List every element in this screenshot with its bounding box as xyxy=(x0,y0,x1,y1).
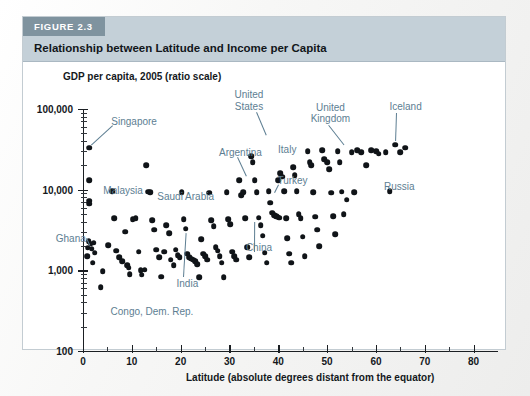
annotation-line: Kingdom xyxy=(311,113,350,125)
x-tick-label: 0 xyxy=(80,356,86,367)
x-tick-minor xyxy=(400,347,401,352)
y-tick-minor xyxy=(81,151,87,152)
scatter-point xyxy=(158,274,164,280)
scatter-point xyxy=(250,159,256,165)
scatter-point xyxy=(298,216,304,222)
x-tick-major xyxy=(474,345,475,353)
scatter-point xyxy=(286,251,292,257)
scatter-point xyxy=(349,150,355,156)
y-tick-minor xyxy=(81,274,87,275)
scatter-point xyxy=(328,190,334,196)
x-tick-minor xyxy=(254,347,255,352)
scatter-point xyxy=(224,189,230,195)
y-tick-label: 1,000 xyxy=(48,265,73,276)
scatter-point xyxy=(344,197,350,203)
scatter-point xyxy=(126,265,132,271)
scatter-point xyxy=(133,216,139,222)
scatter-point xyxy=(156,255,162,261)
annotation-line: States xyxy=(235,101,264,113)
x-tick-major xyxy=(83,345,84,353)
scatter-point xyxy=(87,178,93,184)
scatter-point xyxy=(284,235,290,241)
scatter-point xyxy=(332,231,338,237)
scatter-point xyxy=(339,189,345,195)
scatter-point xyxy=(217,253,223,259)
annotation-line: United xyxy=(235,89,264,101)
x-tick-minor xyxy=(449,347,450,352)
y-tick-label: 100,000 xyxy=(37,104,73,115)
scatter-point xyxy=(236,178,242,184)
annotation-label: Ghana xyxy=(56,233,86,245)
y-tick-major xyxy=(78,190,88,191)
x-axis-line xyxy=(83,351,498,352)
scatter-point xyxy=(219,260,225,266)
scatter-point xyxy=(398,150,404,156)
y-tick-minor xyxy=(81,295,87,296)
scatter-point xyxy=(98,284,104,290)
scatter-point xyxy=(288,260,294,266)
scatter-point xyxy=(163,223,169,229)
scatter-point xyxy=(256,215,262,221)
scatter-point xyxy=(208,217,214,223)
scatter-point xyxy=(294,189,300,195)
scatter-point xyxy=(181,216,187,222)
y-tick-minor xyxy=(81,197,87,198)
scatter-point xyxy=(313,214,319,220)
scatter-point xyxy=(311,189,317,195)
chart-plot-area: GDP per capita, 2005 (ratio scale) 1001,… xyxy=(23,62,505,349)
scatter-point xyxy=(100,268,106,274)
y-tick-minor xyxy=(81,193,87,194)
x-tick-label: 80 xyxy=(468,356,479,367)
y-tick-minor xyxy=(81,283,87,284)
x-tick-minor xyxy=(107,347,108,352)
scatter-point xyxy=(161,249,167,255)
y-tick-major xyxy=(78,109,88,110)
scatter-point xyxy=(211,224,217,230)
scatter-point xyxy=(300,234,306,240)
scatter-point xyxy=(317,243,323,249)
scatter-point xyxy=(319,147,325,153)
scatter-point xyxy=(91,240,97,246)
x-tick-major xyxy=(278,345,279,353)
y-tick-minor xyxy=(81,222,87,223)
scatter-point xyxy=(122,229,128,235)
x-tick-label: 60 xyxy=(370,356,381,367)
scatter-point xyxy=(150,217,156,223)
scatter-point xyxy=(87,201,93,207)
annotation-label: Iceland xyxy=(389,101,421,113)
y-axis-line xyxy=(83,109,84,352)
x-tick-minor xyxy=(156,347,157,352)
annotation-label: Turkey xyxy=(277,175,307,187)
scatter-point xyxy=(171,263,177,269)
y-tick-minor xyxy=(81,117,87,118)
annotation-label: India xyxy=(177,278,199,290)
scatter-point xyxy=(246,255,252,261)
scatter-point xyxy=(358,150,364,156)
scatter-point xyxy=(92,250,98,256)
scatter-point xyxy=(242,216,248,222)
scatter-point xyxy=(177,255,183,261)
x-tick-label: 50 xyxy=(322,356,333,367)
scatter-point xyxy=(260,233,266,239)
x-tick-major xyxy=(181,345,182,353)
scatter-point xyxy=(136,249,142,255)
x-tick-label: 10 xyxy=(126,356,137,367)
chart-axis-title-x: Latitude (absolute degrees distant from … xyxy=(186,372,434,383)
scatter-point xyxy=(87,145,93,151)
annotation-label: Russia xyxy=(384,181,415,193)
annotation-leader-line xyxy=(395,113,397,141)
scatter-point xyxy=(335,148,341,154)
x-tick-label: 40 xyxy=(273,356,284,367)
y-tick-minor xyxy=(81,113,87,114)
scatter-point xyxy=(106,242,112,248)
scatter-point xyxy=(221,274,227,280)
annotation-label: Congo, Dem. Rep. xyxy=(111,306,194,318)
scatter-point xyxy=(148,189,154,195)
scatter-point xyxy=(309,163,315,169)
scatter-point xyxy=(264,260,270,266)
y-tick-minor xyxy=(81,288,87,289)
annotation-label: Saudi Arabia xyxy=(157,191,214,203)
scatter-point xyxy=(376,151,382,157)
x-tick-major xyxy=(376,345,377,353)
scatter-point xyxy=(198,236,204,242)
